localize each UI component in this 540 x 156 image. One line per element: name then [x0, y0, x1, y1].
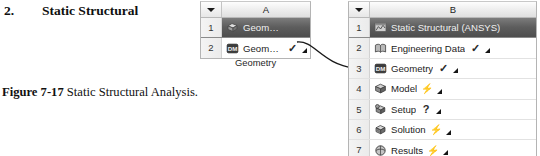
setup-icon	[374, 103, 387, 116]
row-label: Static Structural (ANSYS)	[387, 22, 500, 33]
geometry-block-icon	[226, 21, 239, 34]
cell-corner-tab[interactable]	[446, 130, 451, 135]
status-bolt-icon	[423, 145, 443, 156]
cell-corner-tab[interactable]	[437, 89, 442, 94]
system-a-column-letter: A	[222, 2, 310, 17]
chevron-down-icon	[207, 8, 215, 12]
cell-corner-tab[interactable]	[443, 150, 448, 155]
status-query-icon	[416, 104, 436, 115]
row-cell[interactable]: DMGeometry	[370, 59, 536, 78]
row-cell[interactable]: Solution	[370, 120, 536, 139]
chevron-down-icon	[355, 8, 363, 12]
svg-text:DM: DM	[228, 44, 238, 51]
step-title: Static Structural	[42, 3, 138, 18]
system-a-header: A	[201, 2, 310, 18]
row-cell[interactable]: Geometry	[222, 18, 310, 37]
status-bolt-icon	[426, 124, 446, 135]
table-row[interactable]: 7Results	[349, 140, 536, 156]
row-number: 2	[349, 38, 370, 57]
row-cell[interactable]: Engineering Data	[370, 38, 536, 57]
table-row[interactable]: 2Engineering Data	[349, 38, 536, 58]
cell-corner-tab[interactable]	[436, 109, 441, 114]
row-label: Solution	[387, 124, 426, 135]
figure-caption: Figure 7-17 Static Structural Analysis.	[2, 84, 198, 100]
row-label: Setup	[387, 104, 416, 115]
status-check-icon	[433, 63, 453, 74]
row-number: 4	[349, 79, 370, 98]
system-b-column-letter: B	[370, 2, 536, 17]
table-row[interactable]: 1Static Structural (ANSYS)	[349, 18, 536, 38]
system-b-table[interactable]: B 1Static Structural (ANSYS)2Engineering…	[348, 1, 537, 156]
row-number: 5	[349, 100, 370, 119]
row-label: Geometry	[239, 43, 282, 54]
row-number: 2	[201, 38, 222, 57]
row-number: 1	[201, 18, 222, 37]
row-number: 1	[349, 18, 370, 37]
row-number: 7	[349, 140, 370, 156]
table-row[interactable]: 6Solution	[349, 120, 536, 140]
static-structural-icon	[374, 21, 387, 34]
row-number: 3	[349, 59, 370, 78]
dm-geometry-icon: DM	[374, 62, 387, 75]
row-label: Model	[387, 83, 417, 94]
table-row[interactable]: 5Setup	[349, 100, 536, 120]
row-cell[interactable]: Setup	[370, 100, 536, 119]
engineering-data-icon	[374, 42, 387, 55]
svg-text:DM: DM	[376, 65, 386, 72]
system-b-header: B	[349, 2, 536, 18]
status-check-icon	[465, 43, 485, 54]
row-number: 6	[349, 120, 370, 139]
row-cell[interactable]: Static Structural (ANSYS)	[370, 18, 536, 37]
table-row[interactable]: 2DMGeometry	[201, 38, 310, 57]
row-cell[interactable]: DMGeometry	[222, 38, 310, 57]
row-label: Results	[387, 145, 423, 156]
table-row[interactable]: 4Model	[349, 79, 536, 99]
solution-icon	[374, 123, 387, 136]
row-cell[interactable]: Model	[370, 79, 536, 98]
figure-caption-text: Static Structural Analysis.	[64, 85, 198, 99]
cell-corner-tab[interactable]	[485, 48, 490, 53]
results-icon	[374, 144, 387, 156]
status-check-icon	[282, 43, 302, 54]
system-a-table[interactable]: A 1Geometry2DMGeometry	[200, 1, 311, 59]
step-number: 2.	[4, 3, 42, 19]
dm-geometry-icon: DM	[226, 42, 239, 55]
row-label: Engineering Data	[387, 43, 465, 54]
status-bolt-icon	[417, 83, 437, 94]
model-icon	[374, 82, 387, 95]
table-row[interactable]: 1Geometry	[201, 18, 310, 38]
cell-corner-tab[interactable]	[453, 68, 458, 73]
row-label: Geometry	[387, 63, 433, 74]
step-heading: 2.Static Structural	[4, 3, 194, 19]
system-a-rows: 1Geometry2DMGeometry	[201, 18, 310, 58]
system-b-menu-button[interactable]	[349, 2, 370, 17]
row-cell[interactable]: Results	[370, 140, 536, 156]
system-a-caption: Geometry	[200, 57, 311, 68]
row-label: Geometry	[239, 22, 282, 33]
system-b-rows: 1Static Structural (ANSYS)2Engineering D…	[349, 18, 536, 156]
cell-corner-tab[interactable]	[302, 48, 307, 53]
table-row[interactable]: 3DMGeometry	[349, 59, 536, 79]
figure-label: Figure 7-17	[2, 85, 64, 99]
system-a-menu-button[interactable]	[201, 2, 222, 17]
